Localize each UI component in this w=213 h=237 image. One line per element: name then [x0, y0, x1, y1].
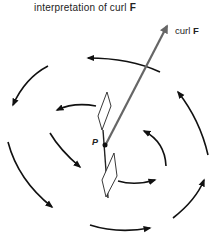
curl-vector-arrow [106, 26, 167, 144]
upper-paddle-blade [98, 92, 111, 130]
arc-inner-left [50, 133, 80, 167]
arc-outer-left-bottom [8, 142, 52, 207]
lower-paddle-blade [102, 153, 117, 197]
arc-inner-top [57, 105, 96, 110]
arc-outer-right-top [178, 92, 208, 155]
arc-outer-left-top [13, 66, 48, 105]
curl-diagram [0, 0, 213, 237]
arc-outer-right-bottom [173, 180, 204, 218]
arc-inner-right [144, 131, 166, 166]
arc-inner-bottom [118, 180, 155, 183]
point-p-dot [103, 143, 108, 148]
arc-outer-bottom [90, 225, 150, 230]
outer-circulation-arcs [8, 58, 208, 230]
